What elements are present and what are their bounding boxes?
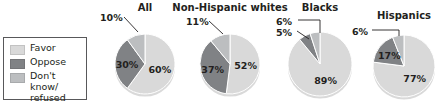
pie-shadow bbox=[373, 39, 435, 99]
pie-slice[interactable] bbox=[200, 41, 230, 94]
pie-shadow bbox=[288, 36, 352, 98]
pie-slice[interactable] bbox=[310, 32, 320, 64]
pie-slice[interactable] bbox=[127, 34, 145, 64]
pie-slice[interactable] bbox=[288, 32, 352, 96]
legend-swatch-oppose bbox=[10, 59, 25, 69]
pie-value-label: 30% bbox=[116, 59, 139, 70]
legend-item-oppose: Oppose bbox=[10, 56, 86, 69]
pie-title-text: Hispanics bbox=[377, 10, 431, 21]
pie-value-label: 52% bbox=[234, 59, 257, 70]
leader-line bbox=[298, 20, 320, 33]
chart-canvas: Favor Oppose Don't know/ refused All60%3… bbox=[0, 0, 444, 108]
leader-line bbox=[124, 17, 138, 32]
pie-value-label: 17% bbox=[378, 49, 401, 60]
legend-item-dontknow: Don't know/ refused bbox=[10, 70, 86, 103]
leader-line bbox=[372, 30, 399, 36]
pie-title-text: All bbox=[138, 2, 153, 13]
pie-shadow bbox=[115, 38, 175, 96]
pie-slice[interactable] bbox=[226, 34, 260, 94]
pie-value-label: 77% bbox=[403, 73, 426, 84]
pie-slice[interactable] bbox=[300, 34, 320, 64]
pie-value-label: 6% bbox=[352, 26, 368, 37]
pie-shadow bbox=[200, 38, 260, 96]
legend-swatch-dontknow bbox=[10, 73, 25, 83]
chart-legend: Favor Oppose Don't know/ refused bbox=[3, 37, 87, 100]
leader-line bbox=[209, 21, 223, 34]
pie-slice[interactable] bbox=[373, 37, 404, 66]
legend-label-favor: Favor bbox=[30, 42, 56, 53]
pie-value-label: 5% bbox=[276, 27, 292, 38]
pie-slice[interactable] bbox=[211, 34, 230, 64]
pie-value-label: 89% bbox=[314, 74, 337, 85]
pie-slice[interactable] bbox=[127, 34, 175, 94]
legend-label-dontknow: Don't know/ refused bbox=[30, 70, 86, 103]
leader-line bbox=[297, 31, 309, 39]
pie-slice[interactable] bbox=[115, 40, 145, 89]
pie-title-text: Blacks bbox=[302, 2, 338, 13]
pie-value-label: 6% bbox=[276, 16, 292, 27]
pie-title-text: Non-Hispanic whites bbox=[172, 2, 287, 13]
pie-slice[interactable] bbox=[393, 35, 404, 66]
pie-value-label: 60% bbox=[148, 63, 171, 74]
pie-value-label: 11% bbox=[186, 16, 209, 27]
pie-value-label: 37% bbox=[201, 64, 224, 75]
legend-swatch-favor bbox=[10, 45, 25, 55]
legend-label-oppose: Oppose bbox=[30, 56, 66, 67]
pie-value-label: 10% bbox=[100, 12, 123, 23]
legend-item-favor: Favor bbox=[10, 42, 86, 55]
pie-slice[interactable] bbox=[373, 35, 435, 97]
